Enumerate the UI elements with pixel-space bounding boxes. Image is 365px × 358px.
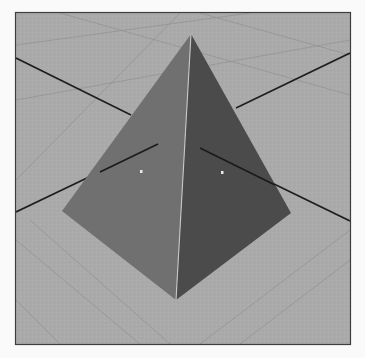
- right-face-marker: [221, 171, 224, 174]
- pyramid-render: [0, 0, 365, 358]
- left-face-marker: [140, 170, 143, 173]
- viewport-scene: [0, 0, 365, 358]
